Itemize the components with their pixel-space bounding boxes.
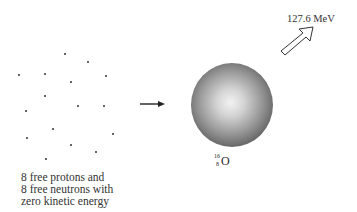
arrows-layer xyxy=(0,0,357,212)
nuclide-label: 16 8 O xyxy=(214,152,244,170)
energy-release-arrow-icon xyxy=(281,27,313,55)
oxygen-16-nucleus xyxy=(191,63,273,147)
right-arrow-icon xyxy=(140,101,165,107)
element-symbol: O xyxy=(221,154,230,169)
atomic-number: 8 xyxy=(216,161,219,167)
mass-number: 16 xyxy=(214,153,220,159)
energy-label: 127.6 MeV xyxy=(287,13,335,24)
